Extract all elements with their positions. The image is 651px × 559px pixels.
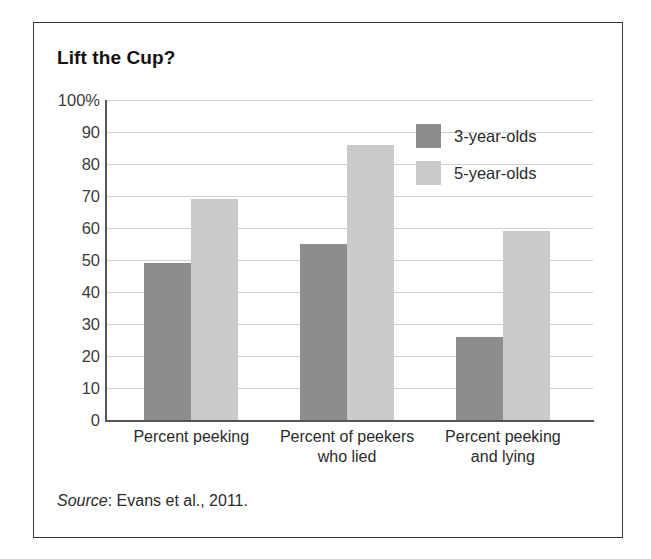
y-axis-tick-labels: 0102030405060708090100%: [34, 100, 100, 420]
y-tick-label: 20: [38, 347, 100, 366]
figure-frame: Lift the Cup? 0102030405060708090100% Pe…: [33, 22, 623, 538]
category-label-line: Percent peeking: [413, 427, 593, 447]
y-tick-label: 90: [38, 123, 100, 142]
legend: 3-year-olds5-year-olds: [416, 124, 591, 198]
bar: [300, 244, 347, 420]
category-label-line: Percent of peekers: [257, 427, 437, 447]
y-tick-label: 60: [38, 219, 100, 238]
y-tick-label: 0: [38, 411, 100, 430]
y-tick-label: 10: [38, 379, 100, 398]
y-tick-label: 70: [38, 187, 100, 206]
y-tick-label: 100%: [38, 91, 100, 110]
source-label: Source: [57, 492, 108, 509]
y-axis-line: [105, 100, 107, 421]
category-label: Percent peekingand lying: [413, 427, 593, 468]
bar: [144, 263, 191, 420]
bar: [347, 145, 394, 420]
source-text: Evans et al., 2011.: [112, 492, 248, 509]
category-label: Percent peeking: [101, 427, 281, 447]
bar: [503, 231, 550, 420]
bar-group: [144, 100, 238, 420]
y-tick-label: 30: [38, 315, 100, 334]
legend-label: 5-year-olds: [454, 164, 537, 183]
legend-item[interactable]: 5-year-olds: [416, 161, 591, 185]
bar-group: [300, 100, 394, 420]
bar: [191, 199, 238, 420]
y-tick-label: 40: [38, 283, 100, 302]
plot-wrapper: 0102030405060708090100% Percent peekingP…: [34, 23, 624, 539]
category-label-line: Percent peeking: [101, 427, 281, 447]
legend-item[interactable]: 3-year-olds: [416, 124, 591, 148]
category-label-line: and lying: [413, 447, 593, 467]
y-tick-label: 80: [38, 155, 100, 174]
bar: [456, 337, 503, 420]
legend-label: 3-year-olds: [454, 127, 537, 146]
x-axis-line: [105, 420, 594, 422]
legend-swatch: [416, 161, 441, 185]
legend-swatch: [416, 124, 441, 148]
category-label-line: who lied: [257, 447, 437, 467]
category-label: Percent of peekerswho lied: [257, 427, 437, 468]
y-tick-label: 50: [38, 251, 100, 270]
source-note: Source: Evans et al., 2011.: [57, 492, 248, 510]
